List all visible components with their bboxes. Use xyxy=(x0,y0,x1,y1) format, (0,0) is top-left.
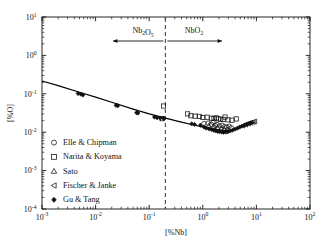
legend-label: Elle & Chipman xyxy=(63,138,117,147)
chart-background xyxy=(0,0,332,242)
legend-label: Fischer & Janke xyxy=(63,181,117,190)
y-axis-title: [%O] xyxy=(6,104,15,122)
legend-label: Gu & Tang xyxy=(63,195,100,204)
solubility-log-log-chart: 10110010-110-210-310-410-310-210-1100101… xyxy=(0,0,332,242)
chart-figure: 10110010-110-210-310-410-310-210-1100101… xyxy=(0,0,332,242)
x-axis-title: [%Nb] xyxy=(165,228,187,237)
legend-label: Narita & Koyama xyxy=(63,152,122,161)
legend-label: Sato xyxy=(63,167,78,176)
